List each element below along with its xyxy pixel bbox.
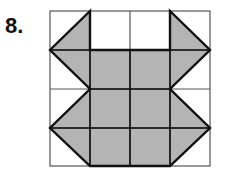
grid-figure (0, 0, 228, 177)
